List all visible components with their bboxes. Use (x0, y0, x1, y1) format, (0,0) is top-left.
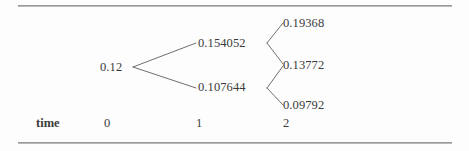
bottom-rule (18, 142, 452, 144)
tree-edges (0, 0, 469, 151)
tree-node-up-up: 0.19368 (283, 17, 324, 30)
edge-root-down (133, 67, 196, 88)
tree-node-down: 0.107644 (198, 81, 246, 94)
time-tick-1: 1 (196, 117, 202, 130)
edge-down-updown (267, 66, 283, 88)
edge-up-updown (267, 43, 283, 64)
edge-up-upup (267, 23, 283, 43)
time-tick-0: 0 (104, 117, 110, 130)
tree-node-up-down: 0.13772 (283, 59, 324, 72)
edge-root-up (133, 43, 196, 67)
tree-node-up: 0.154052 (198, 37, 246, 50)
tree-node-root: 0.12 (100, 61, 122, 74)
time-tick-2: 2 (283, 117, 289, 130)
time-axis-caption: time (36, 117, 60, 130)
edge-down-downdown (267, 88, 283, 105)
binomial-tree-figure: 0.12 0.154052 0.107644 0.19368 0.13772 0… (0, 0, 469, 151)
tree-node-down-down: 0.09792 (283, 99, 324, 112)
